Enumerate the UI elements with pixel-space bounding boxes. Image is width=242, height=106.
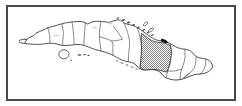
cay bbox=[70, 60, 72, 61]
cay bbox=[122, 19, 125, 21]
isla-de-la-juventud bbox=[59, 50, 69, 59]
cuba-coastline bbox=[22, 20, 212, 80]
cay bbox=[130, 66, 133, 68]
cay bbox=[87, 55, 89, 56]
cuba-map-graphic bbox=[0, 0, 242, 106]
cay bbox=[151, 34, 154, 37]
camaguey-fill bbox=[141, 34, 172, 73]
shading-blob bbox=[92, 27, 97, 29]
isla-juventud-outline bbox=[59, 50, 69, 59]
cay bbox=[78, 54, 82, 56]
cay bbox=[116, 60, 119, 62]
cay bbox=[127, 21, 131, 24]
cay bbox=[135, 68, 138, 70]
archipielago-de-los-canarreos bbox=[70, 54, 90, 61]
cay bbox=[83, 54, 86, 55]
cay-cayo-romano bbox=[148, 27, 154, 33]
highlighted-province-camaguey bbox=[141, 34, 172, 73]
cay bbox=[125, 64, 128, 66]
cay bbox=[120, 62, 123, 64]
shading-blob bbox=[53, 35, 59, 37]
cay bbox=[147, 31, 150, 33]
cay-cayo-coco bbox=[143, 22, 149, 27]
cay bbox=[117, 17, 120, 19]
map-figure: Cuba Camagüey Map of Cuba showing provin… bbox=[0, 0, 242, 106]
shading-blob bbox=[108, 23, 112, 25]
